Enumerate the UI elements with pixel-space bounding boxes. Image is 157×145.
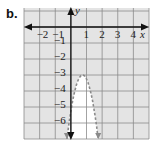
x-tick-label: 2 (99, 28, 105, 40)
x-tick-label: −2 (37, 28, 49, 40)
y-tick-label: −1 (54, 34, 66, 46)
x-tick-label: 1 (84, 28, 90, 40)
inequality-graph: −2−11234−1−2−3−4−5−6xy (0, 0, 157, 145)
y-axis-label: y (74, 4, 80, 16)
x-axis-label: x (139, 28, 145, 40)
y-tick-label: −3 (54, 66, 66, 78)
y-tick-label: −4 (54, 82, 66, 94)
y-tick-label: −2 (54, 50, 66, 62)
x-tick-label: 4 (130, 28, 136, 40)
y-tick-label: −5 (54, 98, 66, 110)
y-tick-label: −6 (54, 114, 66, 126)
x-tick-label: 3 (115, 28, 121, 40)
